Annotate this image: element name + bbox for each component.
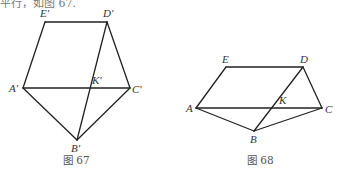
edge-d-c [107,22,130,88]
label-a-prime: A′ [8,82,19,94]
label-a: A [185,102,193,114]
caption-fig-67: 图 67 [63,154,90,166]
figure-67: E′ D′ A′ K′ C′ B′ 图 67 [8,7,142,166]
label-k-prime: K′ [91,74,102,86]
edge-a-b [196,108,254,131]
label-d: D [299,53,308,65]
label-e-prime: E′ [39,7,50,19]
label-e: E [221,53,229,65]
edge-d-c [303,67,322,108]
label-c-prime: C′ [132,83,142,95]
edge-a-b [23,88,77,140]
caption-fig-68: 图 68 [247,154,274,166]
label-d-prime: D′ [102,7,114,19]
label-b: B [250,133,257,145]
label-k: K [278,94,287,106]
figure-68: E D A K C B 图 68 [185,53,333,166]
edge-e-a [196,67,226,108]
label-b-prime: B′ [71,142,81,154]
geometry-diagrams: E′ D′ A′ K′ C′ B′ 图 67 E D A K C B 图 68 [0,0,337,174]
edge-c-b [77,88,130,140]
edge-e-a [23,22,45,88]
label-c: C [325,103,333,115]
edge-c-b [254,108,322,131]
